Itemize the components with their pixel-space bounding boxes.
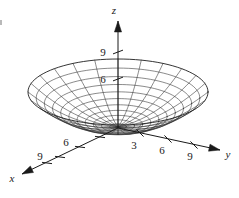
x-axis-tick-label: 9 [37, 150, 43, 162]
paraboloid-figure: 69x369y69z [0, 0, 239, 198]
x-axis-label: x [9, 172, 15, 184]
page-edge-artifact [0, 20, 2, 25]
z-axis-label: z [111, 4, 117, 16]
y-axis-tick-label: 9 [187, 150, 193, 162]
y-axis-label: y [225, 148, 231, 160]
z-axis-tick-label: 9 [100, 46, 106, 58]
y-axis-tick-label: 6 [159, 144, 165, 156]
y-axis-tick-label: 3 [131, 139, 137, 151]
surface-plot-canvas: 69x369y69z [0, 0, 239, 198]
z-axis-tick-label: 6 [100, 73, 106, 85]
x-axis-tick-label: 6 [63, 136, 69, 148]
